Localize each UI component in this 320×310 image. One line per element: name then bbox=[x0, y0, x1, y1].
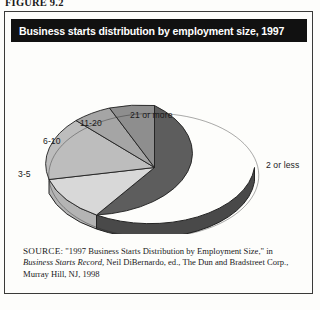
pie-label-11-20: 11-20 bbox=[80, 118, 102, 128]
pie-label-3-5: 3-5 bbox=[18, 169, 31, 179]
pie-label-21-or-more: 21 or more bbox=[130, 110, 173, 120]
chart-title: Business starts distribution by employme… bbox=[11, 25, 284, 37]
pie-label-6-10: 6-10 bbox=[43, 136, 61, 146]
chart-title-bar: Business starts distribution by employme… bbox=[11, 19, 307, 42]
pie-chart: 2 or less 21 or more 11-20 6-10 3-5 bbox=[8, 48, 311, 234]
figure-number: FIGURE 9.2 bbox=[5, 0, 64, 8]
source-note: SOURCE: "1997 Business Starts Distributi… bbox=[23, 246, 295, 280]
source-label: SOURCE: bbox=[23, 246, 63, 256]
pie-label-2-or-less: 2 or less bbox=[266, 160, 299, 170]
figure-page: FIGURE 9.2 Business starts distribution … bbox=[0, 0, 320, 310]
source-text-part-1: "1997 Business Starts Distribution by Em… bbox=[63, 246, 273, 256]
source-publication-title: Business Starts Record, bbox=[23, 257, 104, 267]
